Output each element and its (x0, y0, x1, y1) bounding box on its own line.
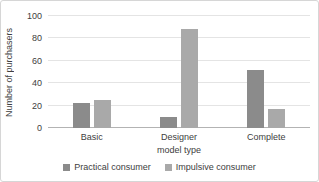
bar-basic-impulsive (94, 100, 111, 128)
bar-basic-practical (73, 103, 90, 128)
y-tick-label: 20 (6, 101, 42, 111)
legend-label-practical-consumer: Practical consumer (74, 162, 151, 172)
bar-designer-practical (160, 117, 177, 128)
y-tick-label: 0 (6, 123, 42, 133)
x-axis-title: model type (48, 145, 310, 155)
x-tick-label: Designer (161, 132, 197, 142)
gridline (48, 60, 310, 61)
x-tick-label: Basic (81, 132, 103, 142)
legend-label-impulsive-consumer: Impulsive consumer (176, 162, 256, 172)
gridline (48, 82, 310, 83)
gridline (48, 37, 310, 38)
bar-complete-practical (247, 70, 264, 128)
legend-marker-impulsive-consumer-icon (165, 164, 172, 171)
legend: Practical consumer Impulsive consumer (1, 162, 318, 172)
bar-chart: Number of purchasers 020406080100BasicDe… (0, 0, 319, 182)
y-tick-label: 100 (6, 11, 42, 21)
y-tick-label: 80 (6, 33, 42, 43)
plot-area: 020406080100BasicDesignerComplete (48, 16, 310, 128)
bar-complete-impulsive (268, 109, 285, 128)
legend-marker-practical-consumer-icon (63, 164, 70, 171)
bar-designer-impulsive (181, 29, 198, 128)
legend-item-practical-consumer: Practical consumer (63, 162, 151, 172)
gridline (48, 15, 310, 16)
y-tick-label: 40 (6, 78, 42, 88)
x-tick-label: Complete (247, 132, 286, 142)
legend-item-impulsive-consumer: Impulsive consumer (165, 162, 256, 172)
y-tick-label: 60 (6, 56, 42, 66)
